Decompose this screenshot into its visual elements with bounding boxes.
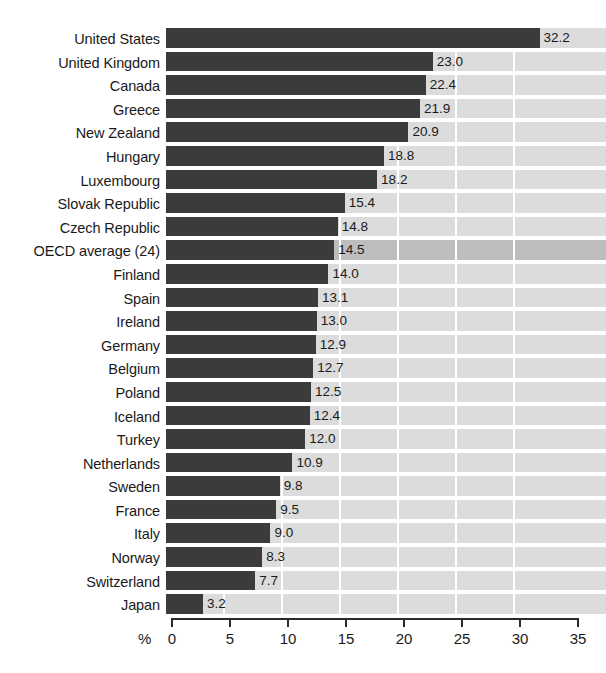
chart-row: Norway8.3	[0, 547, 606, 571]
x-axis-tick	[345, 618, 347, 627]
row-plot-area: 15.4	[166, 193, 606, 217]
bar	[166, 240, 334, 260]
bar-value-label: 20.9	[408, 122, 438, 142]
category-label: Ireland	[0, 311, 166, 335]
chart-row: Finland14.0	[0, 264, 606, 288]
row-plot-area: 14.8	[166, 217, 606, 241]
chart-row: Luxembourg18.2	[0, 170, 606, 194]
bar-value-label: 14.0	[328, 264, 358, 284]
chart-row: Switzerland7.7	[0, 571, 606, 595]
x-axis-tick	[171, 618, 173, 627]
bar-value-label: 3.2	[203, 594, 226, 614]
category-label: Luxembourg	[0, 170, 166, 194]
category-label: New Zealand	[0, 122, 166, 146]
row-plot-area: 9.0	[166, 523, 606, 547]
category-label: Canada	[0, 75, 166, 99]
chart-rows: United States32.2United Kingdom23.0Canad…	[0, 28, 606, 618]
row-plot-area: 14.0	[166, 264, 606, 288]
x-axis-tick-label: 30	[512, 630, 529, 647]
chart-row: Ireland13.0	[0, 311, 606, 335]
bar-value-label: 22.4	[426, 75, 456, 95]
category-label: Japan	[0, 594, 166, 618]
x-axis-tick-label: 20	[396, 630, 413, 647]
category-label: United Kingdom	[0, 52, 166, 76]
category-label: Greece	[0, 99, 166, 123]
x-axis-tick	[461, 618, 463, 627]
chart-row: Germany12.9	[0, 335, 606, 359]
bar	[166, 146, 384, 166]
chart-row: Greece21.9	[0, 99, 606, 123]
category-label: Iceland	[0, 406, 166, 430]
bar-value-label: 10.9	[292, 453, 322, 473]
row-plot-area: 12.9	[166, 335, 606, 359]
chart-row: France9.5	[0, 500, 606, 524]
bar-value-label: 12.7	[313, 358, 343, 378]
row-plot-area: 22.4	[166, 75, 606, 99]
bar-value-label: 18.2	[377, 170, 407, 190]
bar-value-label: 15.4	[345, 193, 375, 213]
row-plot-area: 12.7	[166, 358, 606, 382]
bar	[166, 358, 313, 378]
gridlines	[166, 594, 606, 618]
category-label: Italy	[0, 523, 166, 547]
bar	[166, 75, 426, 95]
bar	[166, 264, 328, 284]
bar	[166, 28, 540, 48]
bar	[166, 547, 262, 567]
chart-row: Canada22.4	[0, 75, 606, 99]
chart-row: OECD average (24)14.5	[0, 240, 606, 264]
row-plot-area: 12.5	[166, 382, 606, 406]
category-label: Switzerland	[0, 571, 166, 595]
bar	[166, 170, 377, 190]
row-plot-area: 13.0	[166, 311, 606, 335]
row-plot-area: 18.8	[166, 146, 606, 170]
chart-row: Iceland12.4	[0, 406, 606, 430]
chart-row: Italy9.0	[0, 523, 606, 547]
x-axis-tick-label: 35	[570, 630, 587, 647]
x-axis-tick-label: 15	[338, 630, 355, 647]
bar-value-label: 13.1	[318, 288, 348, 308]
x-axis-tick-label: 10	[280, 630, 297, 647]
bar	[166, 476, 280, 496]
x-axis-tick	[287, 618, 289, 627]
x-axis-line	[172, 618, 578, 620]
category-label: France	[0, 500, 166, 524]
chart-row: Japan3.2	[0, 594, 606, 618]
bar-value-label: 8.3	[262, 547, 285, 567]
category-label: Spain	[0, 288, 166, 312]
category-label: OECD average (24)	[0, 240, 166, 264]
row-plot-area: 18.2	[166, 170, 606, 194]
category-label: Sweden	[0, 476, 166, 500]
bar-chart: United States32.2United Kingdom23.0Canad…	[0, 0, 606, 673]
category-label: Germany	[0, 335, 166, 359]
row-plot-area: 7.7	[166, 571, 606, 595]
bar	[166, 99, 420, 119]
row-plot-area: 12.4	[166, 406, 606, 430]
bar-value-label: 21.9	[420, 99, 450, 119]
chart-row: Slovak Republic15.4	[0, 193, 606, 217]
category-label: Belgium	[0, 358, 166, 382]
row-plot-area: 21.9	[166, 99, 606, 123]
bar-value-label: 7.7	[255, 571, 278, 591]
bar-value-label: 18.8	[384, 146, 414, 166]
bar-value-label: 32.2	[540, 28, 570, 48]
category-label: Finland	[0, 264, 166, 288]
bar	[166, 335, 316, 355]
chart-row: Poland12.5	[0, 382, 606, 406]
bar	[166, 406, 310, 426]
row-plot-area: 10.9	[166, 453, 606, 477]
bar	[166, 52, 433, 72]
chart-row: Czech Republic14.8	[0, 217, 606, 241]
row-plot-area: 9.5	[166, 500, 606, 524]
category-label: Norway	[0, 547, 166, 571]
row-plot-area: 9.8	[166, 476, 606, 500]
chart-row: Spain13.1	[0, 288, 606, 312]
bar-value-label: 9.0	[270, 523, 293, 543]
category-label: Netherlands	[0, 453, 166, 477]
chart-row: Hungary18.8	[0, 146, 606, 170]
bar-value-label: 14.5	[334, 240, 364, 260]
bar-value-label: 12.0	[305, 429, 335, 449]
x-axis-tick-label: 25	[454, 630, 471, 647]
chart-row: Belgium12.7	[0, 358, 606, 382]
bar-value-label: 12.5	[311, 382, 341, 402]
